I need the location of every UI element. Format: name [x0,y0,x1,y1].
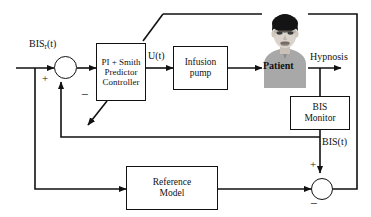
error-junction-plus-sign: + [42,73,48,84]
bis-feedback-label: BIS(t) [322,136,347,147]
reference-input-suffix: (t) [47,38,56,49]
patient-label: Patient [263,60,294,71]
reference-input-name: BIS [29,38,45,49]
controller-block[interactable]: PI + Smith Predictor Controller [96,43,146,101]
error-junction [54,56,77,79]
reference-input-label: BISr(t) [29,38,56,51]
wire-controller-diagonal-out [88,101,107,125]
reference-model-block[interactable]: Reference Model [126,166,218,210]
monitor-line-1: BIS [313,102,328,113]
model-junction-plus-sign: + [310,159,316,170]
controller-line-3: Controller [103,77,140,87]
controller-line-1: PI + Smith [101,57,140,67]
hypnosis-label: Hypnosis [310,51,348,62]
reference-model-line-1: Reference [153,177,192,188]
reference-model-line-2: Model [160,188,185,199]
patient-photo [262,12,308,88]
pump-line-1: Infusion [185,57,217,68]
pump-line-2: pump [190,68,212,79]
error-junction-minus-sign: − [81,88,88,101]
controller-line-2: Predictor [105,67,138,77]
bis-monitor-block[interactable]: BIS Monitor [290,96,350,130]
patient-illustration [262,12,308,88]
diagram-canvas: + − + − PI + Smith Predictor Controller … [0,0,371,217]
wire-adaptation-into-controller [143,14,163,41]
infusion-pump-block[interactable]: Infusion pump [173,46,228,90]
model-junction-minus-sign: − [310,197,317,210]
monitor-line-2: Monitor [304,113,335,124]
control-signal-label: U(t) [148,50,165,61]
